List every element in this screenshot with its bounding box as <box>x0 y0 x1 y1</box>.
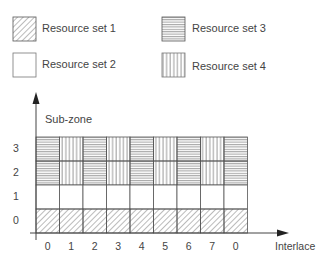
grid-cell-horizontal <box>177 137 201 161</box>
x-tick: 6 <box>179 240 199 252</box>
grid-cell-diagonal <box>60 209 84 233</box>
diagram-canvas <box>0 0 329 262</box>
grid-cell-horizontal <box>130 137 154 161</box>
grid-cell-horizontal <box>36 161 60 185</box>
legend-swatch-resource-set-2 <box>13 53 36 77</box>
grid-cell-blank <box>60 185 84 209</box>
y-tick: 1 <box>6 190 26 202</box>
legend-swatch-resource-set-1 <box>13 17 36 41</box>
grid-cell-blank <box>130 185 154 209</box>
grid-cell-diagonal <box>154 209 178 233</box>
grid-cell-horizontal <box>224 137 248 161</box>
grid-cell-horizontal <box>130 161 154 185</box>
grid-cell-blank <box>154 185 178 209</box>
y-axis-arrow-icon <box>33 92 40 104</box>
y-tick: 2 <box>6 166 26 178</box>
grid-cell-vertical <box>201 137 225 161</box>
grid-cell-blank <box>177 185 201 209</box>
x-tick: 5 <box>155 240 175 252</box>
y-tick: 0 <box>6 214 26 226</box>
legend-label-resource-set-4: Resource set 4 <box>192 60 266 72</box>
grid-cell-vertical <box>201 161 225 185</box>
grid-cell-horizontal <box>224 161 248 185</box>
x-axis-arrow-icon <box>277 230 289 237</box>
grid-cell-blank <box>224 185 248 209</box>
grid-cell-vertical <box>60 137 84 161</box>
grid-cell-vertical <box>107 137 131 161</box>
grid-cell-blank <box>83 185 107 209</box>
grid-cell-horizontal <box>83 137 107 161</box>
grid-cell-blank <box>36 185 60 209</box>
resource-grid <box>36 137 248 233</box>
grid-cell-diagonal <box>130 209 154 233</box>
y-axis-label: Sub-zone <box>45 113 92 125</box>
grid-cell-diagonal <box>224 209 248 233</box>
grid-cell-vertical <box>107 161 131 185</box>
x-tick: 1 <box>61 240 81 252</box>
grid-cell-blank <box>201 185 225 209</box>
legend-label-resource-set-2: Resource set 2 <box>42 58 116 70</box>
x-tick: 3 <box>108 240 128 252</box>
grid-cell-diagonal <box>83 209 107 233</box>
grid-cell-vertical <box>154 137 178 161</box>
x-tick: 0 <box>38 240 58 252</box>
grid-cell-horizontal <box>36 137 60 161</box>
x-tick: 2 <box>85 240 105 252</box>
grid-cell-diagonal <box>36 209 60 233</box>
grid-cell-diagonal <box>107 209 131 233</box>
legend-label-resource-set-1: Resource set 1 <box>42 22 116 34</box>
legend-swatch-resource-set-4 <box>162 53 185 77</box>
grid-cell-vertical <box>154 161 178 185</box>
x-tick: 0 <box>226 240 246 252</box>
grid-cell-horizontal <box>83 161 107 185</box>
legend-label-resource-set-3: Resource set 3 <box>192 22 266 34</box>
legend-swatch-resource-set-3 <box>162 17 185 41</box>
grid-cell-diagonal <box>201 209 225 233</box>
x-axis-label: Interlace <box>275 240 315 252</box>
grid-cell-horizontal <box>177 161 201 185</box>
grid-cell-vertical <box>60 161 84 185</box>
x-tick: 7 <box>202 240 222 252</box>
y-tick: 3 <box>6 142 26 154</box>
grid-cell-blank <box>107 185 131 209</box>
x-tick: 4 <box>132 240 152 252</box>
grid-cell-diagonal <box>177 209 201 233</box>
